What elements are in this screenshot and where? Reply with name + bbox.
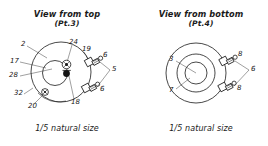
callout-6-lower: 6 — [100, 86, 104, 93]
leader-24 — [68, 45, 73, 61]
callout-2: 2 — [21, 41, 25, 48]
panel-view-from-top: View from top (Pt.3) — [0, 0, 134, 146]
callout-3: 3 — [169, 56, 173, 63]
cam-lobe — [63, 70, 70, 77]
fastener-lower — [218, 81, 236, 92]
leader-32 — [24, 88, 33, 94]
callout-17: 17 — [10, 58, 19, 65]
fastener-upper-nut — [233, 55, 237, 59]
callout-7: 7 — [169, 87, 173, 94]
callout-6-upper: 6 — [103, 52, 107, 59]
panel-caption-top: 1/5 natural size — [0, 124, 134, 133]
callout-20: 20 — [28, 103, 37, 110]
fastener-lower — [81, 82, 99, 93]
callout-19: 19 — [82, 46, 91, 53]
callout-28: 28 — [9, 72, 18, 79]
callout-8-upper: 8 — [238, 51, 242, 58]
fastener-lower-nut — [232, 81, 236, 85]
leader-17 — [20, 62, 46, 68]
panel-view-from-bottom: View from bottom (Pt.4) — [134, 0, 268, 146]
callout-18: 18 — [71, 99, 80, 106]
callout-8-lower: 8 — [237, 85, 241, 92]
drawing-sheet: View from top (Pt.3) — [0, 0, 268, 146]
panel-caption-bottom: 1/5 natural size — [134, 124, 268, 133]
leader-2 — [27, 46, 47, 58]
leader-18 — [69, 76, 74, 99]
callout-5: 5 — [112, 66, 116, 73]
leader-6-upper — [235, 61, 249, 70]
callout-6: 6 — [251, 66, 255, 73]
callout-32: 32 — [14, 90, 23, 97]
callout-24: 24 — [69, 39, 78, 46]
leader-5-upper — [100, 62, 110, 70]
